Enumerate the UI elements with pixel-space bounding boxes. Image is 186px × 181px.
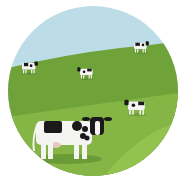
cows-pasture-illustration [0,0,186,181]
circular-frame [0,0,186,181]
